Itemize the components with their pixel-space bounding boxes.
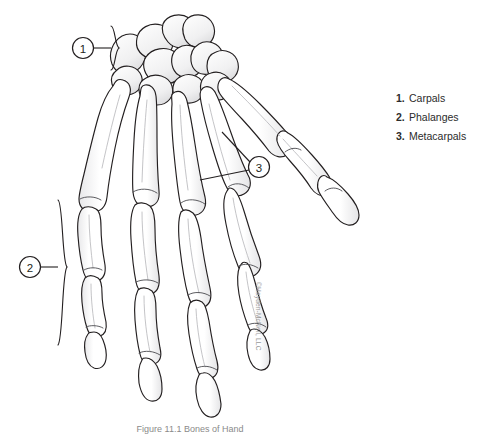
legend-item-carpals: 1. Carpals <box>396 89 491 108</box>
figure-root: 1 2 3 ©Hayden-McNeil, LLC 1. Carpals <box>0 0 493 434</box>
copyright-watermark: ©Hayden-McNeil, LLC <box>255 282 262 351</box>
legend-label-2: Phalanges <box>409 108 459 127</box>
legend-number-1: 1. <box>396 89 409 108</box>
legend-label-1: Carpals <box>409 89 445 108</box>
legend-item-phalanges: 2. Phalanges <box>396 108 491 127</box>
hand-skeleton-illustration: 1 2 3 ©Hayden-McNeil, LLC <box>0 0 380 434</box>
callout-1-number: 1 <box>80 43 86 55</box>
distal-phalanges <box>85 176 359 418</box>
callout-2-number: 2 <box>27 262 33 274</box>
legend: 1. Carpals 2. Phalanges 3. Metacarpals <box>396 89 491 146</box>
middle-phalanges <box>82 262 268 379</box>
legend-label-3: Metacarpals <box>409 127 466 146</box>
legend-item-metacarpals: 3. Metacarpals <box>396 127 491 146</box>
legend-number-2: 2. <box>396 108 409 127</box>
callout-3-number: 3 <box>256 162 262 174</box>
metacarpal-bones <box>79 78 293 216</box>
legend-number-3: 3. <box>396 127 409 146</box>
callout-2[interactable]: 2 <box>20 200 68 345</box>
proximal-phalanges <box>78 131 333 308</box>
figure-caption: Figure 11.1 Bones of Hand <box>0 424 380 434</box>
